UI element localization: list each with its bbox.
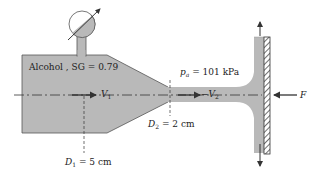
force-label: F <box>299 90 307 100</box>
fluid-label: Alcohol , SG = 0.79 <box>28 62 118 72</box>
pressure-gauge-icon <box>68 9 100 40</box>
jet-diagram: Alcohol , SG = 0.79 pa = 101 kPa V1 −V2 … <box>0 0 315 178</box>
d2-label: D2 = 2 cm <box>147 119 195 130</box>
pressure-label: pa = 101 kPa <box>180 67 240 78</box>
d1-label: D1 = 5 cm <box>64 157 112 168</box>
plate <box>264 37 270 154</box>
